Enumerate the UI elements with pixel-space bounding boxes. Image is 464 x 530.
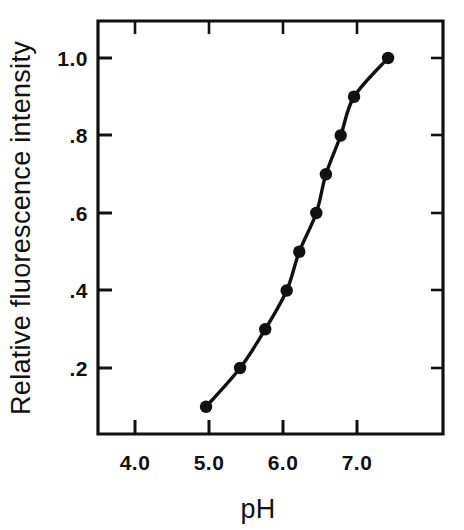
x-tick-label-6: 6.0 xyxy=(268,451,299,474)
plot-frame xyxy=(98,21,443,434)
data-point xyxy=(335,129,347,141)
x-axis-ticks xyxy=(135,420,357,434)
y-axis-ticks xyxy=(98,58,112,368)
x-axis-title: pH xyxy=(240,494,275,524)
data-point xyxy=(310,207,322,219)
x-tick-label-7: 7.0 xyxy=(342,451,373,474)
y-tick-label-0-2: .2 xyxy=(69,357,88,380)
y-tick-label-0-6: .6 xyxy=(69,202,88,225)
data-point xyxy=(259,323,271,335)
x-axis-ticks-top xyxy=(135,21,357,34)
x-tick-label-4: 4.0 xyxy=(120,451,151,474)
data-point xyxy=(293,246,305,258)
data-point xyxy=(382,52,394,64)
data-point xyxy=(234,362,246,374)
y-axis-tick-labels: 1.0 .8 .6 .4 .2 xyxy=(57,47,88,380)
y-axis-title: Relative fluorescence intensity xyxy=(6,41,36,415)
data-series-curve xyxy=(206,58,388,407)
x-axis-tick-labels: 4.0 5.0 6.0 7.0 xyxy=(120,451,373,474)
data-point xyxy=(348,91,360,103)
fluorescence-ph-chart: 4.0 5.0 6.0 7.0 1.0 .8 .6 .4 .2 pH Relat… xyxy=(0,0,464,530)
data-point xyxy=(200,401,212,413)
data-point xyxy=(320,168,332,180)
data-point xyxy=(281,284,293,296)
x-tick-label-5: 5.0 xyxy=(194,451,225,474)
figure-page: 4.0 5.0 6.0 7.0 1.0 .8 .6 .4 .2 pH Relat… xyxy=(0,0,464,530)
y-axis-ticks-right xyxy=(431,58,443,368)
y-tick-label-0-4: .4 xyxy=(69,279,88,302)
data-point-group xyxy=(200,52,394,413)
y-tick-label-0-8: .8 xyxy=(69,124,88,147)
y-tick-label-1-0: 1.0 xyxy=(57,47,88,70)
